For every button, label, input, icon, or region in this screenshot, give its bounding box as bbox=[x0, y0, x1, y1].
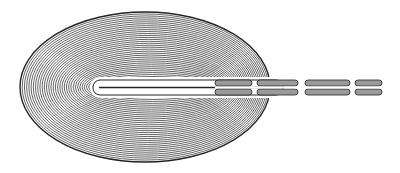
tube-segments bbox=[215, 80, 385, 95]
coiled-tube-illustration bbox=[0, 0, 400, 173]
